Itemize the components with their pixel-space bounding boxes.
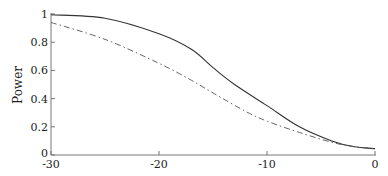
x-tick-label: -20 bbox=[150, 158, 168, 171]
x-tick-label: -10 bbox=[258, 158, 276, 171]
axes: 00.20.40.60.81-30-20-100 bbox=[31, 8, 379, 171]
y-axis-label: Power bbox=[11, 66, 25, 104]
power-chart: 00.20.40.60.81-30-20-100 Power bbox=[0, 0, 388, 176]
y-tick-label: 0.8 bbox=[31, 36, 49, 49]
chart-canvas: 00.20.40.60.81-30-20-100 Power bbox=[0, 0, 388, 176]
y-tick-label: 0.4 bbox=[31, 93, 49, 106]
y-tick-label: 0.6 bbox=[31, 64, 49, 77]
series-layer bbox=[51, 15, 375, 149]
y-tick-label: 0.2 bbox=[31, 121, 49, 134]
y-tick-label: 1 bbox=[41, 8, 48, 21]
x-tick-label: -30 bbox=[42, 158, 60, 171]
series-solid bbox=[51, 15, 375, 149]
series-dash-dot bbox=[51, 22, 375, 148]
x-tick-label: 0 bbox=[372, 158, 379, 171]
